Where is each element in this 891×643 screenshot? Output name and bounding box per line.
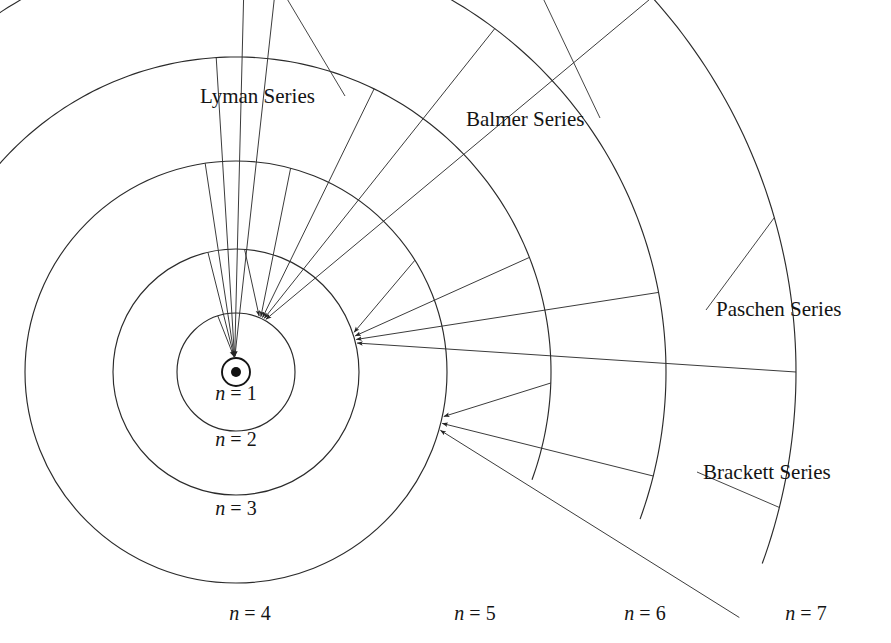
orbit-label-n4: n=4 xyxy=(229,602,270,624)
series-label-paschen: Paschen Series xyxy=(716,297,841,321)
orbit-label-n1: n=1 xyxy=(215,382,256,404)
nucleus-dot xyxy=(231,367,241,377)
orbit-label-value: 4 xyxy=(261,602,271,624)
orbit-label-equals: = xyxy=(230,428,241,450)
orbit-label-value: 1 xyxy=(247,382,257,404)
orbit-label-n7: n=7 xyxy=(785,602,826,624)
transition-line-balmer-4-to-2 xyxy=(261,168,291,317)
leader-line-lyman xyxy=(177,0,345,96)
orbit-label-equals: = xyxy=(800,602,811,624)
transition-line-paschen-7-to-3 xyxy=(357,343,796,372)
orbit-label-value: 5 xyxy=(486,602,496,624)
series-label-balmer: Balmer Series xyxy=(466,107,584,131)
orbit-label-n2: n=2 xyxy=(215,428,256,450)
transition-line-brackett-6-to-4 xyxy=(442,423,653,476)
orbit-label-value: 2 xyxy=(247,428,257,450)
orbit-label-symbol: n xyxy=(785,602,795,624)
orbit-label-value: 6 xyxy=(656,602,666,624)
orbit-label-n5: n=5 xyxy=(454,602,495,624)
transition-group-lyman xyxy=(205,0,294,357)
orbit-label-equals: = xyxy=(639,602,650,624)
orbit-label-n6: n=6 xyxy=(624,602,665,624)
orbit-label-equals: = xyxy=(469,602,480,624)
transition-line-balmer-3-to-2 xyxy=(245,249,260,316)
series-labels-layer: Lyman SeriesBalmer SeriesPaschen SeriesB… xyxy=(200,84,841,484)
transition-line-paschen-5-to-3 xyxy=(355,257,529,335)
orbit-label-symbol: n xyxy=(454,602,464,624)
orbit-label-symbol: n xyxy=(215,428,225,450)
orbits-layer xyxy=(0,0,796,583)
leader-line-balmer xyxy=(481,0,600,118)
orbit-labels-layer: n=1n=2n=3n=4n=5n=6n=7 xyxy=(215,382,826,624)
series-label-lyman: Lyman Series xyxy=(200,84,315,108)
transition-line-paschen-6-to-3 xyxy=(356,292,658,339)
transition-line-brackett-5-to-4 xyxy=(444,383,551,416)
orbit-arc-n6 xyxy=(0,0,666,519)
orbit-label-n3: n=3 xyxy=(215,497,256,519)
orbit-label-symbol: n xyxy=(229,602,239,624)
orbit-label-symbol: n xyxy=(215,497,225,519)
orbit-label-symbol: n xyxy=(215,382,225,404)
bohr-model-figure: n=1n=2n=3n=4n=5n=6n=7 Lyman SeriesBalmer… xyxy=(0,0,891,643)
transition-line-balmer-6-to-2 xyxy=(264,29,495,319)
orbit-label-symbol: n xyxy=(624,602,634,624)
transition-line-lyman-6-to-1 xyxy=(235,0,245,357)
transition-line-paschen-4-to-3 xyxy=(354,260,415,332)
transition-line-balmer-5-to-2 xyxy=(263,89,375,318)
transition-line-balmer-7-to-2 xyxy=(266,0,652,319)
orbit-label-equals: = xyxy=(230,497,241,519)
orbit-label-equals: = xyxy=(244,602,255,624)
orbit-label-value: 7 xyxy=(817,602,827,624)
series-label-brackett: Brackett Series xyxy=(703,460,831,484)
transition-group-brackett xyxy=(440,383,739,618)
transition-line-brackett-7-to-4 xyxy=(440,430,739,617)
orbit-label-equals: = xyxy=(230,382,241,404)
bohr-diagram-svg: n=1n=2n=3n=4n=5n=6n=7 Lyman SeriesBalmer… xyxy=(0,0,891,643)
transition-group-balmer xyxy=(245,0,653,319)
orbit-label-value: 3 xyxy=(247,497,257,519)
